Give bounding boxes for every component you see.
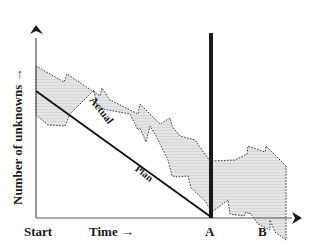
x-tick-start: Start (24, 224, 52, 240)
chart-canvas (0, 0, 319, 248)
x-tick-b: B (258, 224, 267, 240)
x-axis-label: Time → (89, 224, 134, 240)
actual-band (36, 66, 286, 240)
y-axis-arrow-icon (30, 25, 43, 34)
x-tick-a: A (205, 224, 214, 240)
y-axis-label: Number of unknowns → (10, 68, 26, 205)
x-axis-arrow-icon (292, 212, 302, 224)
